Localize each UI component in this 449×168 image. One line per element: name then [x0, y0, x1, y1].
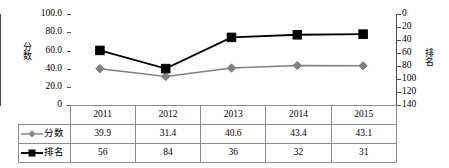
tick-label-right-2: 40: [402, 35, 426, 45]
table-row: 排名5684363231: [19, 144, 397, 163]
tick-label-right-0: 0: [402, 9, 426, 19]
tick-label-left-4: 20.0: [30, 82, 62, 92]
legend-label: 分数: [44, 129, 64, 139]
tick-mark-right-3: [397, 53, 401, 54]
tick-label-right-1: 20: [402, 22, 426, 32]
tick-mark-right-2: [397, 40, 401, 41]
legend-label: 排名: [44, 148, 64, 158]
series-marker-1-2: [227, 33, 236, 42]
tick-mark-right-4: [397, 66, 401, 67]
tick-label-right-5: 100: [402, 74, 426, 84]
tick-label-left-2: 60.0: [30, 46, 62, 56]
table-header-row: 20112012201320142015: [19, 106, 397, 125]
table-header-corner: [19, 106, 71, 125]
series-marker-1-3: [293, 31, 302, 40]
series-marker-0-4: [359, 62, 367, 70]
series-line-1: [100, 34, 363, 68]
table-cell-排名-2012: 84: [135, 144, 200, 163]
y-axis-right-line: [396, 14, 397, 106]
series-marker-0-1: [162, 72, 170, 80]
table-cell-排名-2015: 31: [331, 144, 396, 163]
table-cell-排名-2013: 36: [201, 144, 266, 163]
legend-item-排名[interactable]: 排名: [19, 144, 71, 163]
tick-mark-right-6: [397, 92, 401, 93]
tick-mark-right-1: [397, 27, 401, 28]
tick-label-left-1: 80.0: [30, 27, 62, 37]
table-cell-分数-2011: 39.9: [70, 125, 135, 144]
y-axis-right-ticks: 020406080100120140: [402, 0, 426, 168]
tick-label-right-7: 140: [402, 100, 426, 110]
series-marker-0-3: [293, 61, 301, 69]
tick-mark-left-4: [67, 87, 71, 88]
data-table: 20112012201320142015分数39.931.440.643.443…: [18, 105, 397, 163]
tick-mark-right-7: [397, 105, 401, 106]
series-marker-1-4: [359, 30, 368, 39]
table-header-year-2014: 2014: [266, 106, 331, 125]
table-header-year-2011: 2011: [70, 106, 135, 125]
table-header-year-2015: 2015: [331, 106, 396, 125]
series-line-0: [100, 66, 363, 77]
chart-container: 分数 排名 100.080.060.040.020.00 02040608010…: [0, 0, 449, 168]
tick-mark-left-3: [67, 69, 71, 70]
tick-label-right-4: 80: [402, 61, 426, 71]
tick-mark-left-1: [67, 32, 71, 33]
tick-label-right-6: 120: [402, 87, 426, 97]
table-cell-分数-2014: 43.4: [266, 125, 331, 144]
series-marker-1-0: [96, 46, 105, 55]
series-marker-1-1: [161, 64, 170, 73]
table-header-year-2013: 2013: [201, 106, 266, 125]
tick-mark-left-2: [67, 51, 71, 52]
table-header-year-2012: 2012: [135, 106, 200, 125]
table-cell-分数-2012: 31.4: [135, 125, 200, 144]
table-cell-分数-2015: 43.1: [331, 125, 396, 144]
legend-marker-diamond: [21, 129, 43, 139]
tick-label-left-3: 40.0: [30, 64, 62, 74]
y-axis-left-line: [0, 14, 1, 106]
series-marker-0-2: [227, 64, 235, 72]
tick-mark-right-5: [397, 79, 401, 80]
table-row: 分数39.931.440.643.443.1: [19, 125, 397, 144]
table-cell-排名-2014: 32: [266, 144, 331, 163]
tick-mark-right-0: [397, 14, 401, 15]
table-cell-排名-2011: 56: [70, 144, 135, 163]
table-cell-分数-2013: 40.6: [201, 125, 266, 144]
tick-mark-left-0: [67, 14, 71, 15]
legend-marker-square: [21, 148, 43, 158]
legend-item-分数[interactable]: 分数: [19, 125, 71, 144]
tick-label-left-0: 100.0: [30, 9, 62, 19]
series-marker-0-0: [96, 64, 104, 72]
tick-label-right-3: 60: [402, 48, 426, 58]
